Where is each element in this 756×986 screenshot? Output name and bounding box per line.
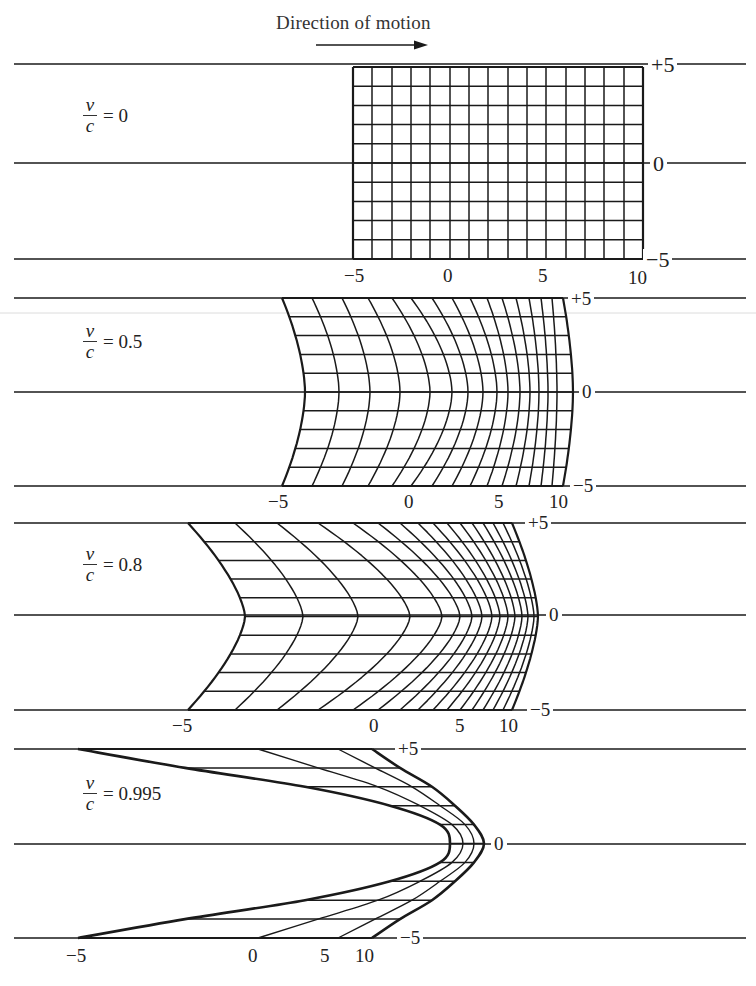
velocity-ratio-label: vc= 0.995 (83, 774, 161, 813)
velocity-ratio-label: vc= 0.8 (83, 545, 142, 584)
y-tick-label: +5 (395, 739, 421, 758)
velocity-ratio-label: vc= 0.5 (83, 322, 142, 361)
diagram-title: Direction of motion (276, 12, 431, 34)
x-tick-label: 5 (538, 266, 548, 285)
x-tick-label: 0 (248, 946, 258, 965)
y-tick-label: −5 (643, 249, 672, 271)
y-tick-label: 0 (491, 834, 507, 853)
velocity-ratio-value: = 0 (103, 105, 128, 127)
y-tick-label: +5 (568, 289, 594, 308)
x-tick-label: 5 (455, 716, 465, 735)
velocity-ratio-value: = 0.8 (103, 554, 142, 576)
x-tick-label: 0 (369, 716, 379, 735)
grid-panel-v0 (14, 64, 746, 259)
relativistic-grid-diagram (0, 0, 756, 986)
velocity-ratio-value: = 0.995 (103, 783, 161, 805)
fraction-denominator: c (83, 117, 97, 135)
grid-column-curve (188, 523, 245, 710)
velocity-ratio-value: = 0.5 (103, 331, 142, 353)
y-tick-label: +5 (648, 54, 677, 76)
y-tick-label: 0 (650, 153, 667, 175)
fraction-numerator: v (83, 96, 97, 114)
x-tick-label: 10 (355, 946, 374, 965)
x-tick-label: 10 (499, 716, 518, 735)
x-tick-label: −5 (172, 716, 192, 735)
x-tick-label: 0 (443, 266, 453, 285)
x-tick-label: −5 (344, 266, 364, 285)
direction-arrow-icon (316, 41, 428, 50)
fraction-denominator: c (83, 795, 97, 813)
v-over-c-fraction: vc (83, 545, 97, 584)
y-tick-label: −5 (570, 476, 596, 495)
y-tick-label: −5 (527, 700, 553, 719)
velocity-ratio-label: vc= 0 (83, 96, 128, 135)
y-tick-label: +5 (525, 513, 551, 532)
x-tick-label: 5 (320, 946, 330, 965)
y-tick-label: 0 (579, 382, 595, 401)
x-tick-label: 0 (404, 492, 414, 511)
x-tick-label: 5 (494, 492, 504, 511)
fraction-denominator: c (83, 566, 97, 584)
x-tick-label: 10 (549, 492, 568, 511)
fraction-numerator: v (83, 322, 97, 340)
x-tick-label: −5 (268, 492, 288, 511)
v-over-c-fraction: vc (83, 774, 97, 813)
v-over-c-fraction: vc (83, 322, 97, 361)
fraction-denominator: c (83, 343, 97, 361)
v-over-c-fraction: vc (83, 96, 97, 135)
fraction-numerator: v (83, 545, 97, 563)
fraction-numerator: v (83, 774, 97, 792)
y-tick-label: −5 (397, 928, 423, 947)
y-tick-label: 0 (546, 605, 562, 624)
x-tick-label: −5 (66, 946, 86, 965)
